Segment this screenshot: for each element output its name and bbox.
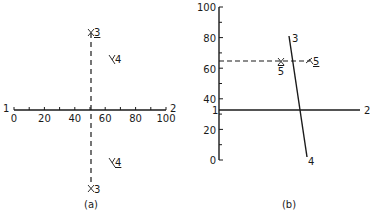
panel-b-line-start-label: 1 xyxy=(212,105,218,116)
panel-b-line-4-label: 4 xyxy=(308,156,314,167)
panel-b-line-end-label: 2 xyxy=(364,105,370,116)
panel-b-tick-20: 20 xyxy=(203,125,216,136)
panel-a-tick-40: 40 xyxy=(68,113,81,124)
panel-a-labels: 1 2 0 20 40 60 80 100 3 4 4 3 (a) xyxy=(3,27,176,210)
marker-label-5-left: 5 xyxy=(278,66,284,77)
panel-a-tick-20: 20 xyxy=(38,113,51,124)
marker-label-3-top: 3 xyxy=(94,27,100,38)
panel-a-tick-0: 0 xyxy=(11,113,17,124)
marker-label-3-bottom: 3 xyxy=(94,184,100,195)
marker-label-5-right: 5 xyxy=(313,56,319,67)
panel-a xyxy=(14,29,166,192)
panel-b-tick-0: 0 xyxy=(210,155,216,166)
panel-a-tick-100: 100 xyxy=(156,113,175,124)
panel-b-caption: (b) xyxy=(282,199,296,210)
panel-b xyxy=(219,7,360,160)
panel-b-line-3-4 xyxy=(289,36,307,157)
marker-label-4-upper: 4 xyxy=(115,54,121,65)
panel-b-tick-80: 80 xyxy=(203,33,216,44)
marker-label-4-lower: 4 xyxy=(115,157,121,168)
panel-a-tick-60: 60 xyxy=(99,113,112,124)
panel-a-caption: (a) xyxy=(84,199,98,210)
panel-b-tick-60: 60 xyxy=(203,64,216,75)
panel-b-tick-100: 100 xyxy=(197,2,216,13)
diagram-canvas: 1 2 0 20 40 60 80 100 3 4 4 3 (a) xyxy=(0,0,372,216)
panel-b-line-3-label: 3 xyxy=(292,33,298,44)
panel-b-tick-40: 40 xyxy=(203,94,216,105)
panel-a-tick-80: 80 xyxy=(129,113,142,124)
panel-a-start-label: 1 xyxy=(3,103,9,114)
panel-b-labels: 100 80 60 40 20 0 1 2 3 4 5 5 (b) xyxy=(197,2,370,210)
